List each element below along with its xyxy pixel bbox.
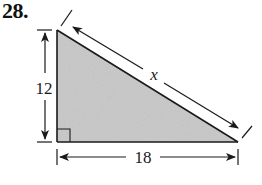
- dimension-tick-hyp-top: [61, 10, 72, 26]
- vertical-leg-label: 12: [36, 79, 53, 98]
- horizontal-dimension: 18: [57, 148, 238, 167]
- diagram-canvas: 12 18 x: [0, 0, 262, 185]
- problem-number: 28.: [2, 0, 28, 24]
- horizontal-leg-label: 18: [135, 148, 152, 167]
- triangle: [57, 30, 238, 142]
- hypotenuse-label: x: [149, 65, 158, 84]
- dimension-tick-hyp-bottom: [242, 126, 252, 138]
- vertical-dimension: 12: [36, 30, 53, 142]
- right-triangle-figure: 28.: [0, 0, 262, 185]
